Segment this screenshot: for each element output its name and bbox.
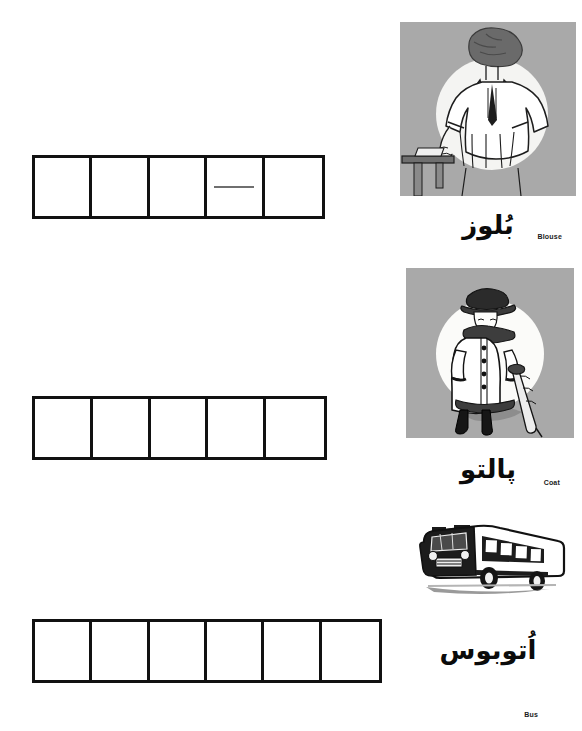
worksheet-page: Blouse بُلوز [0,0,582,731]
answer-cell[interactable] [322,622,379,680]
persian-word-bus: اُتوبوس [400,637,576,663]
picture-card-coat: Coat پالتو [400,268,576,498]
bus-drawing-icon [410,520,570,598]
answer-cell[interactable] [266,399,324,457]
answer-cell[interactable] [92,158,149,216]
persian-word-blouse: بُلوز [400,212,576,238]
dash-hint-icon [214,186,254,188]
answer-cell[interactable] [35,622,92,680]
answer-cell[interactable] [207,622,264,680]
answer-cell[interactable] [35,158,92,216]
answer-cell[interactable] [35,399,93,457]
english-label-bus: Bus [524,711,538,718]
picture-card-blouse: Blouse بُلوز [400,22,576,254]
picture-card-bus: Bus اُتوبوس [400,520,576,690]
answer-cell[interactable] [150,158,207,216]
coat-illustration [406,268,574,438]
answer-box-row-2[interactable] [32,396,327,460]
coat-drawing-icon [406,268,574,438]
blouse-illustration [400,22,576,196]
bus-illustration [410,520,570,598]
answer-cell[interactable] [92,622,149,680]
answer-cell[interactable] [150,622,207,680]
blouse-drawing-icon [400,22,576,196]
answer-box-row-3[interactable] [32,619,382,683]
answer-box-row-1[interactable] [32,155,325,219]
answer-cell[interactable] [93,399,151,457]
answer-cell-with-hint[interactable] [207,158,264,216]
answer-cell[interactable] [264,622,321,680]
answer-cell[interactable] [151,399,209,457]
persian-word-coat: پالتو [400,456,576,482]
answer-cell[interactable] [208,399,266,457]
answer-cell[interactable] [265,158,322,216]
